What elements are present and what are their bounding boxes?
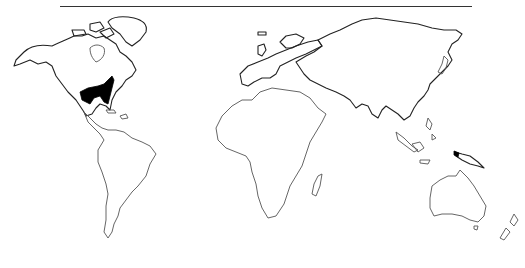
southeastern-us-range <box>80 76 114 104</box>
indonesia-outline <box>396 132 430 164</box>
british-isles-outline <box>258 32 266 56</box>
hudson-bay-outline <box>90 45 105 62</box>
new-guinea-range <box>454 151 459 157</box>
africa-outline <box>216 88 326 218</box>
asia-outline <box>296 18 462 120</box>
new-guinea-outline <box>455 152 484 168</box>
philippines-outline <box>426 118 436 140</box>
scandinavia-outline <box>280 34 304 48</box>
greenland-outline <box>108 17 146 46</box>
australia-outline <box>430 170 486 222</box>
arctic-islands-outline <box>72 22 114 38</box>
tasmania-outline <box>474 226 478 230</box>
south-america-outline <box>84 112 156 238</box>
world-map <box>0 0 525 268</box>
madagascar-outline <box>312 174 322 196</box>
new-zealand-outline <box>500 214 518 240</box>
caribbean-islands-outline <box>106 110 128 119</box>
north-america-outline <box>14 34 136 116</box>
